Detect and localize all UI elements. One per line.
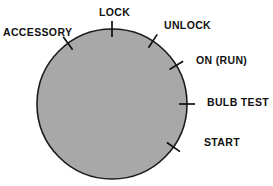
position-label-unlock: UNLOCK	[164, 20, 211, 31]
dial-face-circle	[37, 29, 187, 179]
position-label-lock: LOCK	[99, 7, 130, 18]
position-label-accessory: ACCESSORY	[3, 27, 72, 38]
position-label-start: START	[204, 137, 240, 148]
ignition-switch-diagram: ACCESSORYLOCKUNLOCKON (RUN)BULB TESTSTAR…	[0, 0, 273, 186]
position-label-bulb-test: BULB TEST	[207, 97, 269, 108]
position-label-on-run: ON (RUN)	[196, 55, 247, 66]
